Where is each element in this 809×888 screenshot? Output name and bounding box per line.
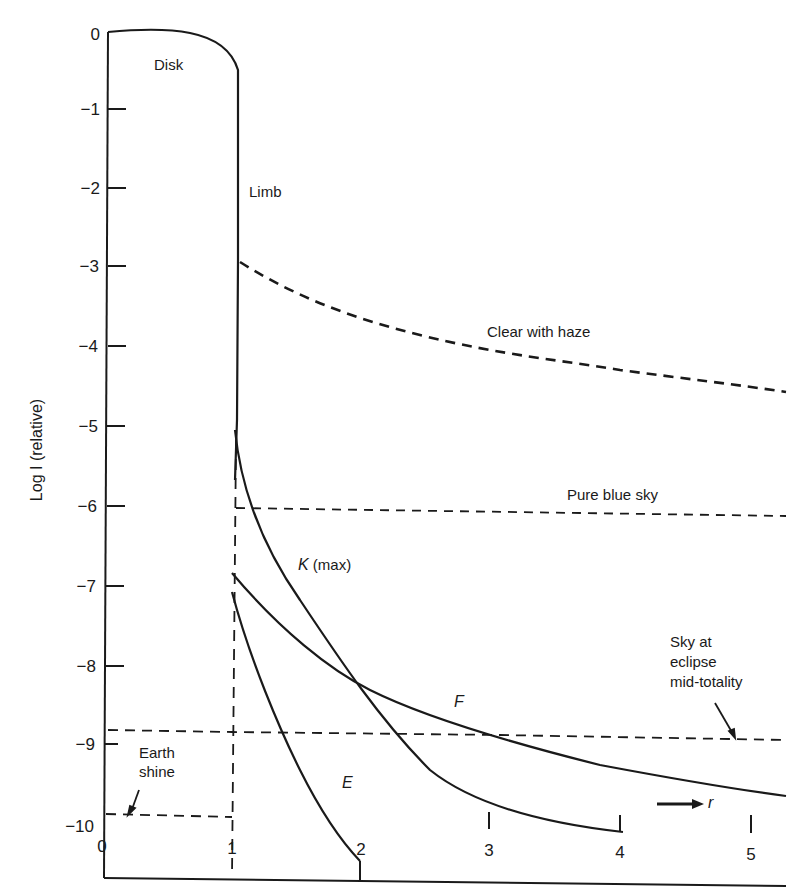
earth-shine-label-2: shine — [139, 763, 175, 780]
f-label: F — [454, 693, 465, 710]
y-tick-2: −2 — [81, 179, 100, 198]
x-tick-5: 5 — [746, 845, 755, 864]
y-axis-title: Log I (relative) — [28, 399, 45, 501]
y-tick-6: −6 — [78, 497, 97, 516]
y-tick-8: −8 — [77, 657, 96, 676]
y-tick-9: −9 — [76, 735, 95, 754]
earth-shine-line — [106, 814, 232, 817]
r-direction-arrow: r — [657, 794, 714, 811]
limb-label: Limb — [249, 183, 282, 200]
r1-dashed-line — [232, 440, 236, 877]
chart-canvas: 0 −1 −2 −3 −4 −5 −6 −7 −8 −9 −10 Log I (… — [0, 0, 809, 888]
x-tick-2: 2 — [356, 840, 365, 859]
axes — [104, 32, 786, 886]
y-tick-5: −5 — [79, 417, 98, 436]
e-curve — [232, 592, 360, 861]
sky-mid-totality-label-2: eclipse — [670, 653, 717, 670]
y-tick-10: −10 — [65, 817, 94, 836]
k-max-label: K (max) — [298, 556, 351, 573]
y-tick-4: −4 — [79, 337, 98, 356]
y-tick-7: −7 — [77, 577, 96, 596]
x-axis-line — [104, 878, 786, 886]
x-tick-0: 0 — [97, 837, 106, 856]
clear-with-haze-label: Clear with haze — [487, 323, 590, 340]
e-label: E — [342, 774, 353, 791]
r-label: r — [708, 794, 714, 811]
k-max-suffix: (max) — [309, 556, 352, 573]
pure-blue-sky-line — [236, 508, 786, 516]
earth-shine-arrow — [128, 790, 139, 815]
y-tick-0: 0 — [91, 25, 100, 44]
sky-mid-totality-label-3: mid-totality — [670, 673, 743, 690]
x-tick-3: 3 — [484, 841, 493, 860]
pure-blue-sky-label: Pure blue sky — [567, 486, 658, 503]
x-tick-4: 4 — [615, 843, 624, 862]
y-tick-3: −3 — [80, 257, 99, 276]
sky-mid-totality-line — [108, 730, 786, 740]
sky-mid-totality-arrow — [715, 703, 735, 738]
y-axis-line — [104, 32, 108, 878]
k-max-curve — [235, 430, 623, 832]
x-tick-labels: 0 1 2 3 4 5 — [97, 837, 755, 864]
earth-shine-label-1: Earth — [139, 744, 175, 761]
sky-mid-totality-label-1: Sky at — [670, 633, 713, 650]
y-tick-labels: 0 −1 −2 −3 −4 −5 −6 −7 −8 −9 −10 — [65, 25, 100, 836]
y-tick-1: −1 — [81, 100, 100, 119]
disk-label: Disk — [154, 56, 184, 73]
